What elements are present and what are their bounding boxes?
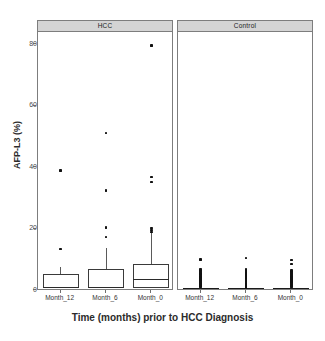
plot-area [37, 32, 173, 290]
outlier-point [59, 169, 61, 171]
box-collapsed [183, 288, 219, 290]
facet-strip-label: HCC [37, 20, 173, 32]
outlier-point [290, 259, 292, 261]
facet-panel-hcc: HCC [37, 20, 173, 290]
box-iqr [88, 269, 124, 288]
outlier-point [150, 231, 152, 233]
outlier-point [150, 176, 152, 178]
y-tick-mark [33, 289, 36, 290]
y-tick-mark [33, 228, 36, 229]
outlier-point [105, 236, 107, 238]
y-tick-mark [33, 166, 36, 167]
outlier-point [199, 286, 201, 288]
x-tick-label: Month_0 [270, 293, 310, 303]
outlier-point [150, 44, 152, 46]
outlier-point [105, 132, 107, 134]
x-tick-mark [245, 290, 246, 293]
outlier-point [245, 286, 247, 288]
whisker-upper [151, 231, 152, 264]
facet-strip-label: Control [177, 20, 313, 32]
y-tick-mark [33, 105, 36, 106]
median-line [133, 279, 169, 280]
x-axis-title: Time (months) prior to HCC Diagnosis [0, 312, 325, 323]
median-line [43, 287, 79, 288]
x-tick-label: Month_12 [180, 293, 220, 303]
whisker-upper [106, 248, 107, 269]
outlier-point [105, 189, 107, 191]
box-collapsed [273, 288, 309, 290]
outlier-point [59, 248, 61, 250]
y-tick-mark [33, 43, 36, 44]
clipped-caption [8, 0, 308, 7]
outlier-point [245, 257, 247, 259]
x-tick-mark [150, 290, 151, 293]
outlier-point [150, 181, 152, 183]
median-line [88, 287, 124, 288]
facet-panel-control: Control [177, 20, 313, 290]
plot-area [177, 32, 313, 290]
x-tick-label: Month_0 [130, 293, 170, 303]
x-tick-label: Month_6 [85, 293, 125, 303]
boxplot-figure: AFP-L3 (%) 020406080 Time (months) prior… [0, 0, 325, 341]
x-tick-label: Month_6 [225, 293, 265, 303]
x-tick-label: Month_12 [40, 293, 80, 303]
x-tick-mark [105, 290, 106, 293]
outlier-point [290, 263, 292, 265]
x-tick-mark [60, 290, 61, 293]
box-iqr [133, 264, 169, 288]
x-tick-mark [200, 290, 201, 293]
y-axis: 020406080 [13, 0, 37, 341]
x-tick-mark [290, 290, 291, 293]
outlier-point [199, 258, 201, 260]
outlier-point [105, 226, 107, 228]
